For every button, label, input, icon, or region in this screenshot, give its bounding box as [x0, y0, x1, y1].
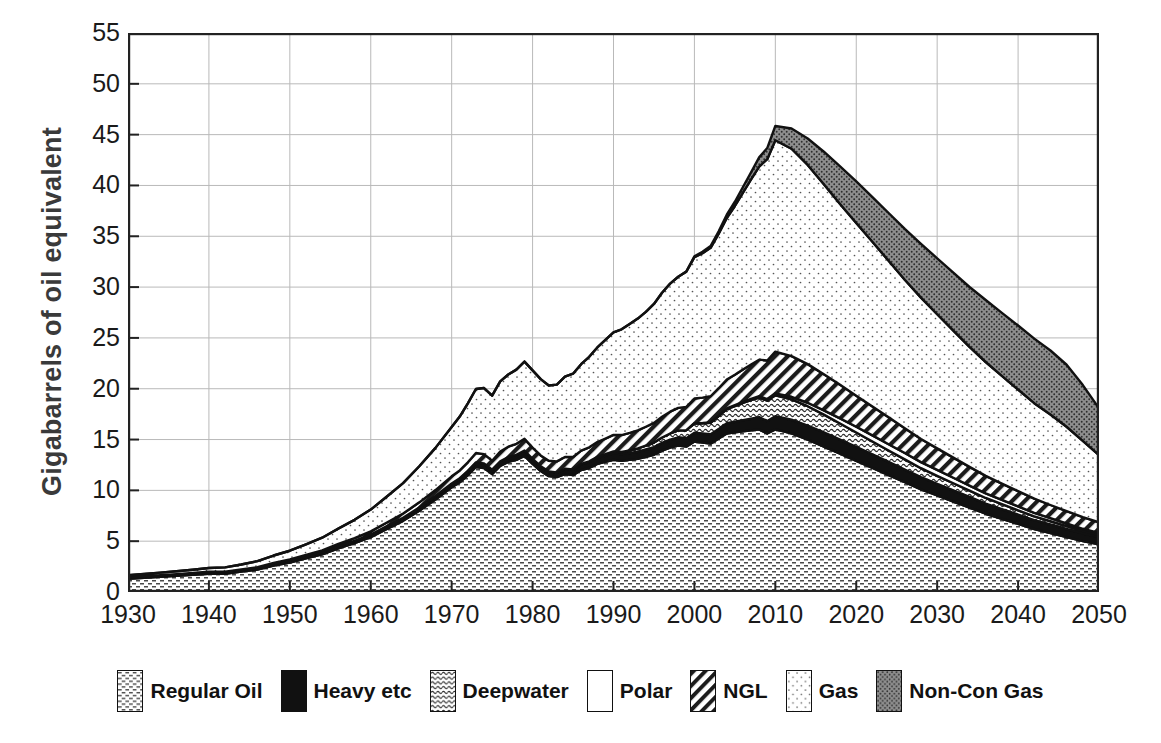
x-axis-tick-labels: 1930194019501960197019801990200020102020… — [0, 602, 1161, 642]
x-tick-label: 2050 — [1044, 602, 1154, 627]
y-tick-label: 25 — [64, 325, 120, 350]
legend-label: Heavy etc — [314, 679, 412, 703]
plot-area — [128, 33, 1099, 592]
y-tick-label: 5 — [64, 528, 120, 553]
legend-item[interactable]: Heavy etc — [281, 670, 412, 712]
y-tick-label: 50 — [64, 71, 120, 96]
y-tick-label: 15 — [64, 427, 120, 452]
stacked-area-chart — [128, 33, 1099, 592]
legend-swatch-dark-stipple — [876, 670, 902, 712]
legend-label: Polar — [620, 679, 673, 703]
y-tick-label: 40 — [64, 172, 120, 197]
legend-item[interactable]: Deepwater — [430, 670, 569, 712]
legend-swatch-stipple-dash — [117, 670, 143, 712]
chart-page: Gigabarrels of oil equivalent Credit: th… — [0, 0, 1161, 743]
legend-item[interactable]: Non-Con Gas — [876, 670, 1043, 712]
legend-label: Deepwater — [463, 679, 569, 703]
legend-label: Gas — [819, 679, 859, 703]
legend-label: Non-Con Gas — [909, 679, 1043, 703]
y-tick-label: 35 — [64, 223, 120, 248]
y-tick-label: 30 — [64, 274, 120, 299]
legend-swatch-solid-black — [281, 670, 307, 712]
legend-swatch-light-stipple — [786, 670, 812, 712]
legend-swatch-white — [587, 670, 613, 712]
y-tick-label: 10 — [64, 477, 120, 502]
legend-item[interactable]: Regular Oil — [117, 670, 262, 712]
chart-legend: Regular OilHeavy etcDeepwaterPolarNGLGas… — [0, 665, 1161, 717]
legend-item[interactable]: Polar — [587, 670, 673, 712]
legend-label: Regular Oil — [150, 679, 262, 703]
legend-label: NGL — [723, 679, 767, 703]
legend-item[interactable]: Gas — [786, 670, 859, 712]
legend-swatch-diagonal-hatch — [690, 670, 716, 712]
y-tick-label: 20 — [64, 376, 120, 401]
y-tick-label: 45 — [64, 122, 120, 147]
y-tick-label: 55 — [64, 20, 120, 45]
legend-item[interactable]: NGL — [690, 670, 767, 712]
legend-swatch-wave-texture — [430, 670, 456, 712]
